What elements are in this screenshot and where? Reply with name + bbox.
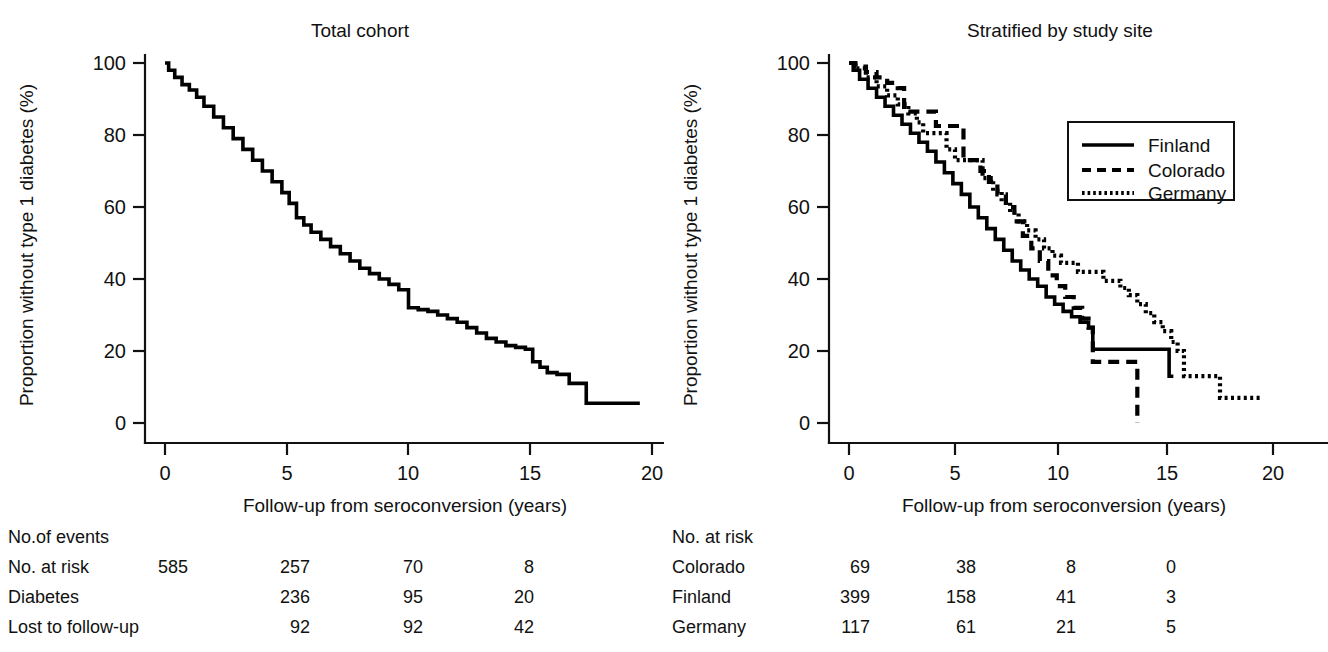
x-axis-label: Follow-up from seroconversion (years) <box>902 495 1226 516</box>
risk-row-0-value-0: 585 <box>158 557 188 577</box>
x-tick-label-5: 5 <box>281 462 292 484</box>
y-tick-label-20: 20 <box>788 340 810 362</box>
y-tick-label-40: 40 <box>104 268 126 290</box>
y-axis-label: Proportion without type 1 diabetes (%) <box>680 84 701 406</box>
risk-row-label-2: Germany <box>672 617 746 637</box>
risk-table-header: No.of events <box>8 527 109 547</box>
risk-row-2-value-2: 21 <box>1056 617 1076 637</box>
risk-row-0-value-3: 8 <box>524 557 534 577</box>
chart-total-cohort: Total cohort Proportion without type 1 d… <box>0 0 664 652</box>
legend-label-colorado: Colorado <box>1148 160 1225 181</box>
y-tick-label-100: 100 <box>93 52 126 74</box>
panel-title: Stratified by study site <box>967 20 1153 41</box>
panel-stratified-by-study-site: Stratified by study site Proportion with… <box>664 0 1328 652</box>
x-tick-label-0: 0 <box>159 462 170 484</box>
x-ticks <box>849 443 1273 455</box>
y-tick-label-100: 100 <box>777 52 810 74</box>
y-tick-label-0: 0 <box>115 412 126 434</box>
curve-group-total-cohort <box>165 63 640 403</box>
risk-row-0-value-1: 38 <box>956 557 976 577</box>
risk-row-2-value-3: 42 <box>514 617 534 637</box>
x-axis: 0 5 10 15 20 <box>829 443 1328 484</box>
risk-row-0-value-2: 70 <box>403 557 423 577</box>
risk-row-label-0: No. at risk <box>8 557 90 577</box>
risk-row-1-value-3: 20 <box>514 587 534 607</box>
legend-label-finland: Finland <box>1148 135 1210 156</box>
curve-group-stratified <box>849 63 1262 423</box>
curve-finland <box>849 63 1173 376</box>
x-tick-label-20: 20 <box>641 462 663 484</box>
risk-row-2-value-0: 117 <box>841 617 870 637</box>
risk-row-label-2: Lost to follow-up <box>8 617 139 637</box>
x-axis: 0 5 10 15 20 <box>145 443 664 484</box>
x-axis-label: Follow-up from seroconversion (years) <box>243 495 567 516</box>
y-axis: 100 80 60 40 20 0 <box>777 52 829 443</box>
y-tick-label-0: 0 <box>799 412 810 434</box>
legend-label-germany: Germany <box>1148 183 1227 204</box>
risk-row-1-value-2: 41 <box>1056 587 1076 607</box>
risk-row-2-value-3: 5 <box>1166 617 1176 637</box>
risk-row-1-value-1: 158 <box>946 587 976 607</box>
risk-table-header: No. at risk <box>672 527 754 547</box>
x-tick-label-15: 15 <box>519 462 541 484</box>
risk-row-0-value-3: 0 <box>1166 557 1176 577</box>
risk-row-2-value-1: 61 <box>956 617 976 637</box>
legend: Finland Colorado Germany <box>1068 122 1234 204</box>
risk-table-total-cohort: No.of events No. at risk 585 257 70 8 Di… <box>8 527 534 637</box>
risk-row-label-1: Finland <box>672 587 731 607</box>
y-tick-label-80: 80 <box>788 124 810 146</box>
risk-row-2-value-2: 92 <box>403 617 423 637</box>
y-tick-label-60: 60 <box>104 196 126 218</box>
y-tick-label-40: 40 <box>788 268 810 290</box>
risk-row-label-0: Colorado <box>672 557 745 577</box>
y-tick-label-20: 20 <box>104 340 126 362</box>
x-ticks <box>165 443 652 455</box>
x-tick-label-10: 10 <box>397 462 419 484</box>
risk-row-0-value-0: 69 <box>850 557 870 577</box>
x-tick-label-20: 20 <box>1262 462 1284 484</box>
panel-total-cohort: Total cohort Proportion without type 1 d… <box>0 0 664 652</box>
risk-row-0-value-1: 257 <box>280 557 310 577</box>
curve-total-cohort <box>165 63 640 403</box>
y-tick-label-80: 80 <box>104 124 126 146</box>
panel-title: Total cohort <box>311 20 410 41</box>
risk-row-0-value-2: 8 <box>1066 557 1076 577</box>
risk-row-1-value-2: 95 <box>403 587 423 607</box>
risk-row-1-value-0: 399 <box>840 587 870 607</box>
y-ticks <box>817 63 829 423</box>
y-axis: 100 80 60 40 20 0 <box>93 52 145 443</box>
risk-row-2-value-1: 92 <box>290 617 310 637</box>
x-tick-label-15: 15 <box>1156 462 1178 484</box>
x-tick-label-10: 10 <box>1047 462 1069 484</box>
risk-row-1-value-3: 3 <box>1166 587 1176 607</box>
risk-table-stratified: No. at risk Colorado 69 38 8 0 Finland 3… <box>672 527 1176 637</box>
risk-row-label-1: Diabetes <box>8 587 79 607</box>
y-tick-label-60: 60 <box>788 196 810 218</box>
x-tick-label-5: 5 <box>949 462 960 484</box>
y-ticks <box>133 63 145 423</box>
x-tick-label-0: 0 <box>843 462 854 484</box>
chart-stratified: Stratified by study site Proportion with… <box>664 0 1328 652</box>
y-axis-label: Proportion without type 1 diabetes (%) <box>16 84 37 406</box>
risk-row-1-value-1: 236 <box>280 587 310 607</box>
